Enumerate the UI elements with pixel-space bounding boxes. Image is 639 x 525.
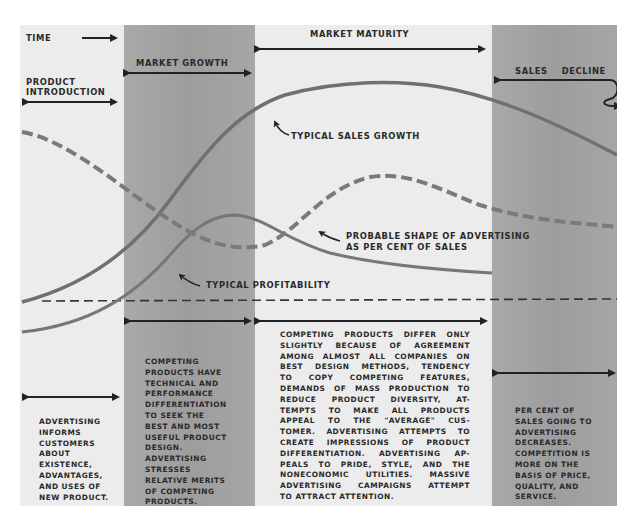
sales-curve <box>22 82 617 302</box>
maturity-description: COMPETING PRODUCTS DIFFER ONLY SLIGHTLY … <box>280 330 470 503</box>
introduction-label-2: INTRODUCTION <box>26 87 105 98</box>
growth-label: MARKET GROWTH <box>136 58 228 69</box>
zero-baseline <box>42 299 617 301</box>
profitability-curve-label: TYPICAL PROFITABILITY <box>206 280 330 291</box>
advertising-curve-label-2: AS PER CENT OF SALES <box>346 242 468 253</box>
advertising-curve-label-1: PROBABLE SHAPE OF ADVERTISING <box>346 231 530 242</box>
growth-description: COMPETING PRODUCTS HAVE TECHNICAL AND PE… <box>145 357 227 506</box>
product-life-cycle-diagram: TIME PRODUCT INTRODUCTION MARKET GROWTH … <box>20 25 617 506</box>
sales-curve-label: TYPICAL SALES GROWTH <box>291 131 420 142</box>
decline-description: PER CENT OF SALES GOING TO ADVERTISING D… <box>515 406 592 503</box>
time-label: TIME <box>26 33 51 44</box>
decline-label: SALES DECLINE <box>515 66 606 77</box>
maturity-label: MARKET MATURITY <box>310 29 409 40</box>
introduction-description: ADVERTISING INFORMS CUSTOMERS ABOUT EXIS… <box>39 417 109 503</box>
